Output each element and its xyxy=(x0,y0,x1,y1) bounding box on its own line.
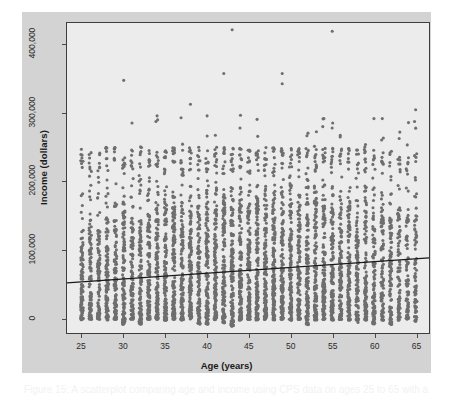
x-tick-mark xyxy=(123,334,124,338)
x-tick-label: 50 xyxy=(271,341,311,351)
y-tick-label: 200,000 xyxy=(27,151,37,209)
figure-caption: Figure 15: A scatterplot comparing age a… xyxy=(24,384,444,396)
x-tick-mark xyxy=(417,334,418,338)
x-tick-label: 40 xyxy=(187,341,227,351)
y-tick-label: 0 xyxy=(27,289,37,347)
x-tick-mark xyxy=(375,334,376,338)
regression-line-layer xyxy=(67,23,429,333)
x-tick-label: 55 xyxy=(313,341,353,351)
x-tick-mark xyxy=(81,334,82,338)
y-tick-label: 300,000 xyxy=(27,83,37,141)
y-tick-label: 100,000 xyxy=(27,220,37,278)
figure-panel: Income (dollars) 0100,000200,000300,0004… xyxy=(22,12,431,373)
x-axis-title: Age (years) xyxy=(22,360,431,371)
x-tick-label: 25 xyxy=(61,341,101,351)
x-tick-mark xyxy=(333,334,334,338)
x-tick-label: 35 xyxy=(145,341,185,351)
x-tick-mark xyxy=(165,334,166,338)
x-tick-mark xyxy=(207,334,208,338)
plot-area xyxy=(66,22,430,334)
y-tick-label: 400,000 xyxy=(27,14,37,72)
x-tick-label: 30 xyxy=(103,341,143,351)
x-tick-mark xyxy=(291,334,292,338)
y-axis-title: Income (dollars) xyxy=(38,108,49,228)
x-tick-mark xyxy=(249,334,250,338)
x-tick-label: 60 xyxy=(355,341,395,351)
regression-line xyxy=(67,258,429,283)
x-tick-label: 45 xyxy=(229,341,269,351)
x-tick-label: 65 xyxy=(397,341,437,351)
